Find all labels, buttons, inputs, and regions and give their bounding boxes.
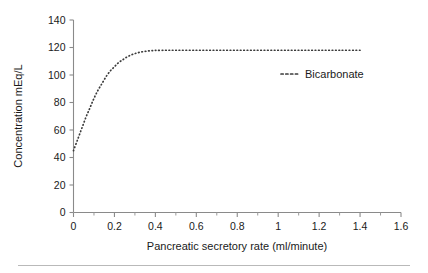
- y-tick-label: 20: [54, 179, 66, 191]
- y-tick-label: 140: [48, 14, 66, 26]
- x-tick-label: 0: [71, 220, 77, 232]
- x-tick-label: 0.6: [189, 220, 204, 232]
- y-axis-title: Concentration mEq/L: [12, 64, 24, 167]
- x-tick-label: 1.2: [312, 220, 327, 232]
- y-tick-label: 120: [48, 41, 66, 53]
- x-tick-label: 1.6: [394, 220, 409, 232]
- x-tick-label: 0.4: [148, 220, 163, 232]
- y-tick-label: 100: [48, 69, 66, 81]
- x-tick-label: 0.8: [230, 220, 245, 232]
- y-tick-label: 40: [54, 151, 66, 163]
- x-axis-title: Pancreatic secretory rate (ml/minute): [147, 240, 327, 252]
- x-tick-label: 0.2: [107, 220, 122, 232]
- pancreatic-bicarbonate-chart: 020406080100120140 00.20.40.60.811.21.41…: [0, 0, 428, 273]
- y-tick-label: 60: [54, 124, 66, 136]
- y-tick-label: 80: [54, 96, 66, 108]
- x-tick-label: 1: [275, 220, 281, 232]
- x-tick-label: 1.4: [353, 220, 368, 232]
- legend-label-bicarbonate: Bicarbonate: [305, 68, 364, 80]
- y-tick-label: 0: [60, 206, 66, 218]
